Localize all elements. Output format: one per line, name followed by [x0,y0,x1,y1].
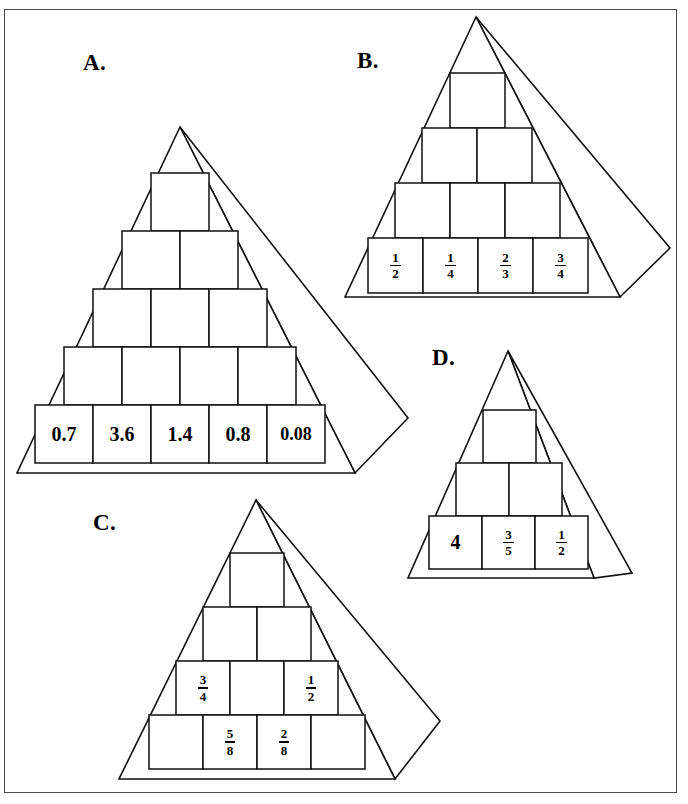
pyramid-c-cell-r2c2 [257,607,311,661]
pyramid-c-cell-r1c1 [230,553,284,607]
pyramid-b-cell-r2c2 [477,128,532,183]
pyramid-d-graphic [408,351,632,578]
pyramid-d-cell-r3c1 [429,516,482,569]
pyramid-d-cell-r1c1 [483,410,536,463]
pyramid-d-cell-r2c1 [456,463,509,516]
pyramid-b-cell-r1c1 [450,73,505,128]
pyramid-b-cell-r4c2 [423,238,478,293]
pyramid-b-cell-r3c2 [450,183,505,238]
pyramid-a-cell-r4c2 [122,347,180,405]
pyramid-a-cell-r4c3 [180,347,238,405]
pyramid-c-cell-r3c2 [230,661,284,715]
pyramid-b-cell-r3c3 [505,183,560,238]
pyramid-d-cell-r3c2 [482,516,535,569]
pyramid-b-cell-r4c4 [533,238,588,293]
pyramid-a-cell-r3c1 [93,289,151,347]
pyramid-c-cell-r2c1 [203,607,257,661]
pyramid-a-cell-r5c4 [209,405,267,463]
pyramid-c-cell-r3c1 [176,661,230,715]
pyramid-c-cell-r4c3 [257,715,311,769]
pyramid-b-cell-r2c1 [422,128,477,183]
pyramid-a-cell-r2c2 [180,231,238,289]
pyramid-d-cell-r3c3 [535,516,588,569]
pyramid-c-cell-r3c3 [284,661,338,715]
pyramid-a-cell-r5c2 [93,405,151,463]
pyramid-a-cell-r1c1 [151,173,209,231]
pyramid-a-cell-r3c2 [151,289,209,347]
pyramid-b-cell-r3c1 [395,183,450,238]
worksheet-page: A. B. C. D. 0.7 3.6 1.4 0.8 0.08 1 2 1 4… [0,0,688,804]
pyramid-a-cell-r3c3 [209,289,267,347]
pyramid-a-cell-r5c1 [35,405,93,463]
pyramid-b-label: B. [357,48,379,74]
pyramid-c-graphic [119,500,440,779]
pyramid-a-cell-r4c1 [64,347,122,405]
pyramid-b-cell-r4c1 [368,238,423,293]
pyramid-b-graphic [345,17,670,297]
pyramid-d-label: D. [432,345,455,371]
pyramid-a-label: A. [83,50,106,76]
pyramid-a-cell-r2c1 [122,231,180,289]
pyramid-a-cell-r4c4 [238,347,296,405]
pyramid-b-cell-r4c3 [478,238,533,293]
pyramid-c-cell-r4c2 [203,715,257,769]
pyramid-a-cell-r5c3 [151,405,209,463]
pyramid-c-cell-r4c4 [311,715,365,769]
pyramid-d-cell-r2c2 [509,463,562,516]
pyramid-c-label: C. [93,510,116,536]
pyramid-a-graphic [17,127,408,473]
pyramid-figures [0,0,688,804]
pyramid-a-cell-r5c5 [267,405,325,463]
pyramid-c-cell-r4c1 [149,715,203,769]
